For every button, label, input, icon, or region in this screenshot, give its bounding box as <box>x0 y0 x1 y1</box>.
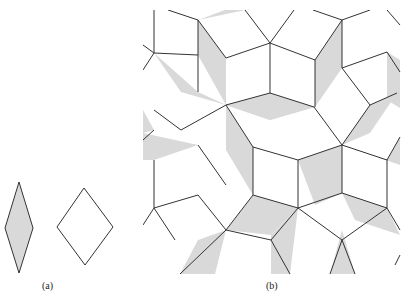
fat-rhombus <box>57 188 113 265</box>
tile-edge <box>342 68 370 105</box>
thin-rhombus-tile <box>198 10 245 20</box>
tile-edge <box>245 10 270 43</box>
tile-edge <box>198 145 226 185</box>
thin-rhombus-tile <box>226 93 315 120</box>
panel-a <box>5 182 113 273</box>
tile-edge <box>168 10 198 20</box>
tile-edge <box>395 255 400 265</box>
penrose-figure <box>0 0 404 294</box>
tile-edge <box>270 43 315 60</box>
tile-edge <box>154 195 198 208</box>
tile-edge <box>154 110 181 130</box>
tile-edge <box>154 53 198 55</box>
thin-rhombus-tile <box>342 193 400 235</box>
thin-rhombus-tile <box>298 145 342 205</box>
thin-rhombus-tile <box>330 230 355 274</box>
tile-edge <box>143 45 154 53</box>
tile-edge <box>143 53 154 70</box>
tile-edge <box>342 10 370 20</box>
thin-rhombus <box>5 182 33 273</box>
thin-rhombus-tile <box>143 133 198 160</box>
panel-b-label: (b) <box>266 280 278 291</box>
tile-edge <box>198 195 226 230</box>
thin-rhombus-tile <box>226 105 253 195</box>
thin-rhombus-tile <box>198 20 226 105</box>
tile-edge <box>313 10 342 20</box>
panel-a-label: (a) <box>42 280 53 291</box>
tile-edge <box>342 52 387 68</box>
tile-edge <box>143 208 154 225</box>
tile-edge <box>342 145 387 160</box>
tile-edge <box>270 10 294 43</box>
tile-edge <box>253 147 298 160</box>
tile-edge <box>314 107 342 145</box>
thin-rhombus-tile <box>143 110 154 133</box>
tile-edge <box>387 10 400 25</box>
thin-rhombus-tile <box>387 52 400 108</box>
tile-edge <box>154 208 175 240</box>
tile-edge <box>226 43 270 58</box>
panel-b-tiling <box>143 10 400 274</box>
tile-edge <box>298 208 342 240</box>
thin-rhombus-tile <box>315 20 342 107</box>
tile-edge <box>181 105 226 130</box>
